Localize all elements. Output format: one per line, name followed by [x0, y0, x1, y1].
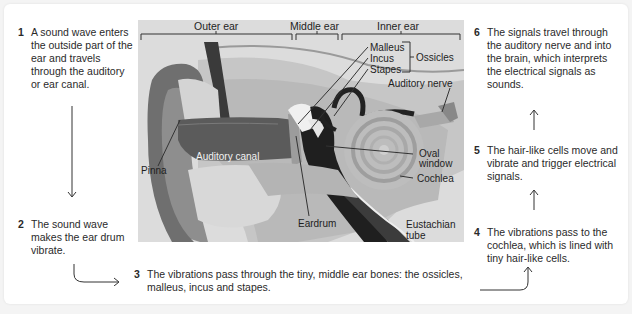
step-number: 5	[474, 144, 480, 157]
step-2: 2 The sound wave makes the ear drum vibr…	[18, 218, 128, 257]
label-oval-window-line2: window	[419, 158, 452, 169]
label-eustachian-line2: tube	[406, 230, 425, 241]
label-ossicles: Ossicles	[416, 52, 454, 63]
label-cochlea: Cochlea	[417, 173, 454, 184]
label-auditory-canal: Auditory canal	[196, 151, 259, 162]
step-text: The hair-like cells move and vibrate and…	[474, 144, 624, 183]
diagram-card: 1 A sound wave enters the outside part o…	[4, 4, 628, 304]
step-number: 1	[18, 26, 24, 39]
region-label-outer-ear: Outer ear	[194, 20, 238, 32]
step-number: 6	[474, 26, 480, 39]
step-text: The vibrations pass to the cochlea, whic…	[474, 226, 624, 265]
arrow-down-icon	[66, 104, 78, 200]
arrow-curve-up-icon	[478, 264, 534, 292]
label-pinna: Pinna	[141, 165, 167, 176]
label-stapes: Stapes	[370, 64, 401, 75]
step-6: 6 The signals travel through the auditor…	[474, 26, 624, 91]
arrow-up-icon	[528, 108, 540, 132]
label-malleus: Malleus	[370, 42, 404, 53]
region-label-inner-ear: Inner ear	[377, 20, 419, 32]
step-text: The sound wave makes the ear drum vibrat…	[18, 218, 128, 257]
step-number: 3	[134, 268, 140, 281]
ear-anatomy-illustration: Outer ear Middle ear Inner ear Malleus I…	[138, 20, 464, 242]
step-number: 2	[18, 218, 24, 231]
step-3: 3 The vibrations pass through the tiny, …	[134, 268, 474, 294]
label-eustachian-line1: Eustachian	[406, 219, 455, 230]
step-4: 4 The vibrations pass to the cochlea, wh…	[474, 226, 624, 265]
step-1: 1 A sound wave enters the outside part o…	[18, 26, 136, 91]
label-auditory-nerve: Auditory nerve	[388, 78, 452, 89]
label-eardrum: Eardrum	[298, 218, 336, 229]
step-5: 5 The hair-like cells move and vibrate a…	[474, 144, 624, 183]
step-number: 4	[474, 226, 480, 239]
step-text: The signals travel through the auditory …	[474, 26, 624, 91]
region-label-middle-ear: Middle ear	[290, 20, 339, 32]
label-incus: Incus	[370, 53, 394, 64]
arrow-curve-right-icon	[70, 262, 124, 286]
arrow-up-icon	[528, 188, 540, 212]
step-text: A sound wave enters the outside part of …	[18, 26, 136, 91]
step-text: The vibrations pass through the tiny, mi…	[134, 268, 474, 294]
